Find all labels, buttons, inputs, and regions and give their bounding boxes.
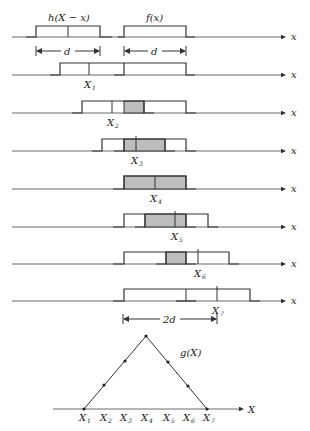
svg-text:3: 3 — [128, 417, 132, 424]
svg-text:x: x — [291, 145, 297, 156]
d-label-1: d — [64, 46, 70, 57]
f-label: f(x) — [145, 12, 163, 23]
h-pulse — [26, 26, 112, 37]
overlap-region — [124, 139, 165, 151]
axis-X-label: X — [247, 404, 256, 415]
f-edge — [114, 63, 124, 75]
f-edge — [186, 252, 196, 264]
h-f-outline — [50, 63, 195, 75]
shift-label-5: X — [170, 231, 179, 242]
f-edge — [186, 214, 196, 227]
point-X6 — [186, 384, 189, 387]
h-edge — [135, 214, 145, 227]
shift-label-3: X — [130, 155, 139, 166]
row-5: X 4 x — [12, 176, 297, 205]
overlap-region — [166, 252, 186, 264]
axis-x-label: x — [291, 31, 297, 42]
h-edge — [156, 252, 166, 264]
svg-text:3: 3 — [139, 160, 143, 167]
h-edge — [144, 101, 154, 113]
svg-text:2: 2 — [107, 417, 112, 424]
f-pulse — [118, 26, 195, 37]
point-X2 — [102, 383, 105, 386]
row-6: X 5 x — [12, 211, 297, 243]
shift-label-4: X — [149, 193, 158, 204]
svg-text:x: x — [291, 69, 297, 80]
convolution-diagram: h(X − x) f(x) x d d X 1 x X 2 x — [0, 0, 310, 431]
svg-text:6: 6 — [191, 417, 195, 424]
point-X1 — [82, 407, 85, 410]
row-3: X 2 x — [12, 101, 297, 129]
svg-text:x: x — [291, 221, 297, 232]
svg-text:4: 4 — [148, 417, 153, 424]
svg-text:6: 6 — [202, 273, 206, 280]
point-X4 — [144, 334, 147, 337]
overlap-region — [124, 101, 144, 113]
f-edge — [114, 139, 124, 151]
tick-X4: X — [140, 412, 149, 423]
svg-text:7: 7 — [220, 310, 224, 317]
row-1: h(X − x) f(x) x d d — [12, 12, 297, 57]
svg-text:x: x — [291, 295, 297, 306]
svg-text:1: 1 — [92, 84, 96, 91]
tick-X6: X — [182, 412, 191, 423]
point-X7 — [205, 407, 208, 410]
2d-label: 2d — [162, 314, 176, 325]
svg-text:2: 2 — [114, 122, 119, 129]
point-X3 — [123, 359, 126, 362]
row-8: X 7 x 2d — [12, 286, 297, 325]
svg-text:7: 7 — [211, 417, 215, 424]
shift-label-2: X — [106, 117, 115, 128]
g-label: g(X) — [180, 347, 201, 358]
row-2: X 1 x — [12, 63, 297, 91]
tick-X5: X — [162, 412, 171, 423]
tick-X2: X — [99, 412, 108, 423]
svg-text:5: 5 — [179, 236, 183, 243]
svg-text:x: x — [291, 258, 297, 269]
shift-label-7: X — [211, 305, 220, 316]
row-7: X 6 x — [12, 249, 297, 280]
h-edge — [165, 139, 175, 151]
tick-X1: X — [78, 412, 87, 423]
shift-label-1: X — [83, 79, 92, 90]
svg-text:1: 1 — [87, 417, 91, 424]
svg-text:4: 4 — [157, 198, 162, 205]
svg-text:x: x — [291, 183, 297, 194]
d-label-2: d — [151, 46, 157, 57]
overlap-region — [145, 214, 186, 227]
tick-X7: X — [202, 412, 211, 423]
shift-label-6: X — [193, 268, 202, 279]
g-triangle-plot: X g(X) X 1 X 2 X 3 X 4 X 5 X 6 X 7 — [53, 334, 256, 424]
h-label: h(X − x) — [48, 12, 90, 23]
row-4: X 3 x — [12, 136, 297, 167]
svg-text:x: x — [291, 107, 297, 118]
tick-X3: X — [119, 412, 128, 423]
point-X5 — [166, 360, 169, 363]
svg-text:5: 5 — [171, 417, 175, 424]
